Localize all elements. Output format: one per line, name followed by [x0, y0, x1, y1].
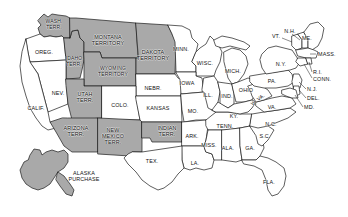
region-colorado[interactable] [102, 86, 140, 120]
region-new-york[interactable] [260, 46, 300, 74]
region-alaska-panhandle[interactable] [56, 172, 74, 196]
region-alabama[interactable] [222, 128, 242, 162]
region-washington-territory[interactable] [38, 14, 70, 38]
region-massachusetts[interactable] [296, 48, 318, 58]
region-florida[interactable] [242, 156, 286, 196]
region-oregon[interactable] [26, 34, 66, 62]
region-arizona-territory[interactable] [50, 118, 98, 152]
leader-line-connecticut [304, 64, 312, 78]
region-michigan[interactable] [224, 48, 248, 84]
region-texas[interactable] [124, 146, 184, 190]
region-arkansas[interactable] [182, 120, 208, 146]
region-dakota-territory[interactable] [136, 23, 176, 74]
leader-line-vermont [282, 38, 292, 42]
leader-line-maryland [295, 95, 303, 107]
region-kansas[interactable] [136, 96, 182, 122]
historical-us-map: WASH. TERR. OREG. IDAHO TERR. MONTANA TE… [0, 0, 348, 217]
region-indian-territory[interactable] [142, 122, 182, 142]
us-map-svg [0, 0, 348, 217]
region-nebraska[interactable] [136, 74, 182, 96]
region-new-mexico-territory[interactable] [98, 118, 142, 156]
